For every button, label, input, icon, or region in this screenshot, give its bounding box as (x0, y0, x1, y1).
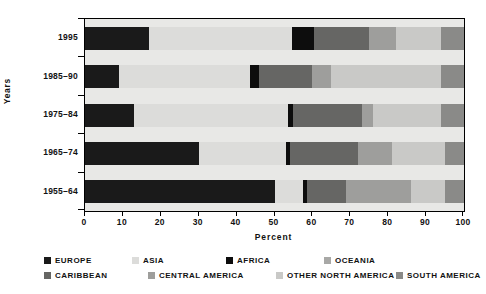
x-axis-tick-label: 80 (382, 217, 392, 227)
bar-segment (441, 27, 464, 50)
x-axis-tick-label: 20 (155, 217, 165, 227)
x-axis-tick (236, 211, 237, 216)
y-axis-tick-label: 1975–84 (18, 109, 78, 119)
legend-label: Oceania (335, 256, 375, 265)
bar-segment (134, 104, 287, 127)
plot-area (84, 18, 465, 212)
bar-segment (119, 65, 250, 88)
y-axis-tick-label: 1955–64 (18, 186, 78, 196)
x-axis-tick-label: 70 (344, 217, 354, 227)
x-axis-tick (160, 211, 161, 216)
legend-item[interactable]: Other North America (276, 268, 394, 282)
x-axis-tick (198, 211, 199, 216)
x-axis-tick-label: 0 (81, 217, 86, 227)
x-axis-tick (84, 211, 85, 216)
bar-row (85, 27, 464, 50)
bar-segment (250, 65, 259, 88)
bar-segment (441, 65, 464, 88)
x-axis-tick (387, 211, 388, 216)
bar-segment (445, 142, 464, 165)
bar-segment (411, 180, 445, 203)
y-axis-tick-labels: 19951985–901975–841965–741955–64 (18, 18, 78, 210)
bar-segment (392, 142, 445, 165)
x-axis-tick-label: 30 (193, 217, 203, 227)
bar-segment (199, 142, 286, 165)
x-axis-title: Percent (84, 232, 463, 242)
bar-segment (85, 65, 119, 88)
legend-item[interactable]: Central America (148, 268, 244, 282)
legend-item[interactable]: South America (396, 268, 481, 282)
bar-segment (275, 180, 303, 203)
bars-layer (85, 19, 464, 211)
bar-segment (441, 104, 464, 127)
bar-segment (312, 65, 331, 88)
x-axis-tick (311, 211, 312, 216)
legend-item[interactable]: Africa (226, 253, 270, 267)
x-axis-tick (349, 211, 350, 216)
legend-label: Asia (143, 256, 164, 265)
stacked-bar-chart: Years 19951985–901975–841965–741955–64 0… (0, 0, 486, 294)
legend-label: Africa (237, 256, 270, 265)
bar-segment (358, 142, 392, 165)
y-axis-tick-label: 1995 (18, 32, 78, 42)
bar-segment (293, 104, 361, 127)
x-axis-ticks: 0102030405060708090100 (84, 211, 463, 217)
legend-swatch-icon (396, 272, 403, 279)
bar-row (85, 142, 464, 165)
bar-segment (85, 180, 275, 203)
x-axis-tick-label: 50 (268, 217, 278, 227)
legend-swatch-icon (276, 272, 283, 279)
x-axis-tick (122, 211, 123, 216)
bar-segment (259, 65, 312, 88)
y-axis-tick-label: 1965–74 (18, 147, 78, 157)
x-axis-tick (425, 211, 426, 216)
bar-segment (396, 27, 441, 50)
bar-segment (290, 142, 358, 165)
bar-row (85, 180, 464, 203)
x-axis-tick-label: 90 (420, 217, 430, 227)
legend-row: CaribbeanCentral AmericaOther North Amer… (44, 268, 480, 282)
legend-swatch-icon (324, 257, 331, 264)
legend-swatch-icon (226, 257, 233, 264)
legend-label: Europe (55, 256, 92, 265)
x-axis-tick (274, 211, 275, 216)
legend-swatch-icon (44, 272, 51, 279)
bar-segment (85, 142, 199, 165)
x-axis-tick-label: 100 (455, 217, 470, 227)
legend-swatch-icon (148, 272, 155, 279)
bar-segment (373, 104, 441, 127)
bar-segment (149, 27, 291, 50)
legend-item[interactable]: Caribbean (44, 268, 108, 282)
legend-label: South America (407, 271, 481, 280)
legend-label: Caribbean (55, 271, 108, 280)
bar-segment (362, 104, 373, 127)
bar-segment (307, 180, 347, 203)
chart-legend: EuropeAsiaAfricaOceania CaribbeanCentral… (44, 253, 464, 287)
bar-row (85, 65, 464, 88)
x-axis-tick-label: 60 (306, 217, 316, 227)
x-axis-tick-label: 10 (117, 217, 127, 227)
legend-row: EuropeAsiaAfricaOceania (44, 253, 464, 267)
legend-label: Other North America (287, 271, 394, 280)
y-axis-tick-label: 1985–90 (18, 71, 78, 81)
bar-segment (369, 27, 396, 50)
x-axis-tick-label: 40 (231, 217, 241, 227)
bar-segment (314, 27, 369, 50)
legend-label: Central America (159, 271, 244, 280)
x-axis-tick (462, 211, 463, 216)
legend-swatch-icon (132, 257, 139, 264)
bar-segment (331, 65, 441, 88)
legend-item[interactable]: Asia (132, 253, 164, 267)
legend-item[interactable]: Oceania (324, 253, 375, 267)
bar-segment (445, 180, 464, 203)
bar-segment (85, 104, 134, 127)
legend-item[interactable]: Europe (44, 253, 92, 267)
legend-swatch-icon (44, 257, 51, 264)
y-axis-title: Years (2, 78, 16, 104)
bar-segment (85, 27, 149, 50)
bar-row (85, 104, 464, 127)
bar-segment (292, 27, 315, 50)
bar-segment (346, 180, 410, 203)
